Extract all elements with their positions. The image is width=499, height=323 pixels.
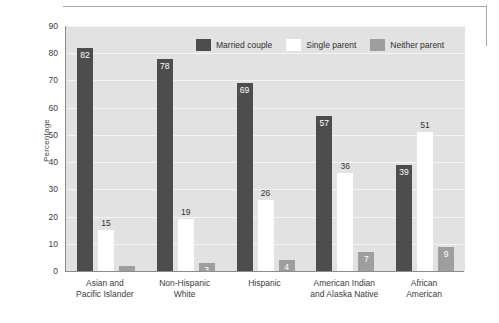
y-tick-label-30: 30: [32, 184, 58, 194]
bar: [77, 48, 93, 271]
y-tick-label-0: 0: [32, 266, 58, 276]
bar: [337, 173, 353, 271]
bar: [396, 165, 412, 271]
legend-label: Single parent: [306, 40, 356, 50]
bar-value-label: 9: [432, 250, 460, 259]
y-tick-label-60: 60: [32, 103, 58, 113]
legend-label: Neither parent: [390, 40, 444, 50]
gridline-60: [66, 108, 465, 109]
x-category-label-line: African: [374, 278, 474, 289]
legend-swatch-icon: [286, 39, 301, 51]
bar-value-label: 36: [331, 162, 359, 171]
y-tick-label-50: 50: [32, 130, 58, 140]
bar-value-label: 26: [252, 189, 280, 198]
right-divider-rule: [486, 5, 487, 46]
y-tick-label-80: 80: [32, 48, 58, 58]
bar: [98, 230, 114, 271]
x-category-label-line: White: [135, 289, 235, 300]
x-category-label-line: American: [374, 289, 474, 300]
legend-label: Married couple: [216, 40, 272, 50]
x-axis-line: [65, 271, 464, 272]
plot-area: 821578193692645736739519: [65, 26, 465, 271]
legend-item: Single parent: [286, 39, 356, 51]
bar: [157, 59, 173, 271]
y-tick-label-40: 40: [32, 157, 58, 167]
y-tick-label-10: 10: [32, 239, 58, 249]
gridline-40: [66, 162, 465, 163]
bar-value-label: 69: [231, 86, 259, 95]
bar: [237, 83, 253, 271]
gridline-70: [66, 80, 465, 81]
bar-value-label: 19: [172, 208, 200, 217]
bar-chart-figure: Percentage 0102030405060708090 821578193…: [0, 0, 499, 323]
bar-value-label: 57: [310, 119, 338, 128]
bar-value-label: 39: [390, 168, 418, 177]
bar-value-label: 51: [411, 121, 439, 130]
y-axis-title: Percentage: [42, 81, 51, 201]
y-tick-label-20: 20: [32, 212, 58, 222]
bar: [178, 219, 194, 271]
gridline-50: [66, 135, 465, 136]
x-category-label: AfricanAmerican: [374, 278, 474, 300]
legend-item: Married couple: [196, 39, 272, 51]
bar-value-label: 82: [71, 51, 99, 60]
y-tick-label-90: 90: [32, 21, 58, 31]
legend-item: Neither parent: [370, 39, 444, 51]
bar: [316, 116, 332, 271]
legend-swatch-icon: [196, 39, 211, 51]
bar-value-label: 15: [92, 219, 120, 228]
bar-value-label: 78: [151, 62, 179, 71]
bar: [417, 132, 433, 271]
gridline-90: [66, 26, 465, 27]
legend-swatch-icon: [370, 39, 385, 51]
bar-value-label: 7: [352, 255, 380, 264]
y-tick-label-70: 70: [32, 75, 58, 85]
bar: [258, 200, 274, 271]
gridline-80: [66, 53, 465, 54]
chart-legend: Married coupleSingle parentNeither paren…: [196, 38, 458, 51]
top-divider-rule: [63, 6, 486, 7]
